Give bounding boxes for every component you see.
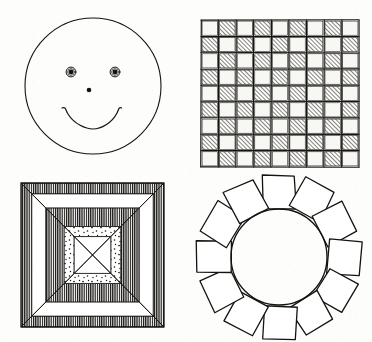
figure-smiley-face [0, 0, 186, 171]
left-eye-icon [66, 67, 76, 77]
checkerboard-cells [202, 21, 358, 166]
mouth-smile-arc [62, 108, 122, 129]
right-eye-icon [110, 67, 120, 77]
figure-hatched-checkerboard [186, 0, 372, 171]
rosette-square-ring [196, 175, 362, 341]
rosette-centre-circle [231, 209, 327, 305]
figure-cross-bands [0, 171, 186, 342]
figure-sheet [0, 0, 372, 342]
figure-square-rosette [186, 171, 372, 342]
nose-dot [87, 88, 92, 93]
face-outline-circle [25, 18, 161, 154]
